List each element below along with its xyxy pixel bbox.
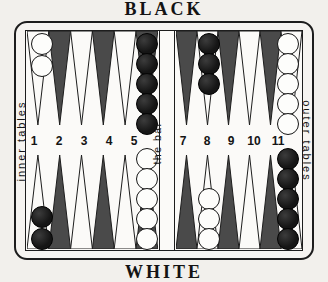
label-outer-tables: outer tables (301, 82, 313, 200)
point-number-5: 5 (124, 134, 144, 148)
label-inner-tables: inner tables (15, 82, 27, 200)
point-number-2: 2 (49, 134, 69, 148)
point-number-9: 9 (221, 134, 241, 148)
point-number-11: 11 (268, 134, 288, 148)
point-number-1: 1 (24, 134, 44, 148)
point-number-8: 8 (197, 134, 217, 148)
point-number-10: 10 (244, 134, 264, 148)
label-the-bar: the bar (151, 97, 163, 189)
point-number-7: 7 (173, 134, 193, 148)
point-number-3: 3 (74, 134, 94, 148)
point-number-4: 4 (99, 134, 119, 148)
board-title-white: WHITE (0, 262, 328, 282)
